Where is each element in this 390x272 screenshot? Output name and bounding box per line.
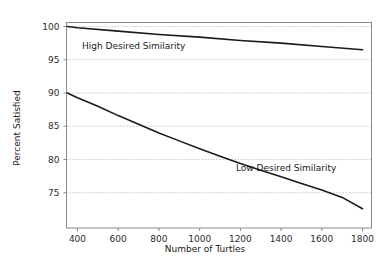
chart-container: 7580859095100 40060080010001200140016001… (0, 0, 390, 272)
y-axis-title: Percent Satisfied (12, 90, 22, 166)
x-tick-label-1800: 1800 (351, 234, 374, 244)
annotation-high-desired-similarity: High Desired Similarity (82, 41, 186, 51)
x-tick-label-1200: 1200 (229, 234, 252, 244)
x-axis-title: Number of Turtles (165, 244, 246, 254)
x-tick-label-1400: 1400 (270, 234, 293, 244)
y-tick-label-85: 85 (48, 121, 59, 131)
line-chart: 7580859095100 40060080010001200140016001… (0, 0, 390, 272)
y-tick-label-100: 100 (42, 22, 59, 32)
y-tick-label-75: 75 (48, 188, 59, 198)
x-tick-label-600: 600 (110, 234, 127, 244)
y-tick-label-95: 95 (48, 55, 59, 65)
annotation-low-desired-similarity: Low Desired Similarity (236, 163, 337, 173)
chart-background (0, 0, 390, 272)
x-tick-label-1600: 1600 (310, 234, 333, 244)
x-tick-label-400: 400 (69, 234, 86, 244)
y-tick-label-90: 90 (48, 88, 60, 98)
x-tick-label-800: 800 (150, 234, 167, 244)
x-tick-label-1000: 1000 (188, 234, 211, 244)
y-tick-label-80: 80 (48, 155, 60, 165)
